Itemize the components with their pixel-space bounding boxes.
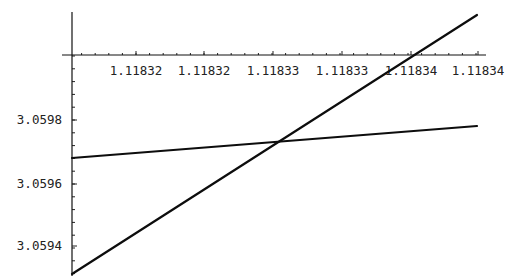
data-series (72, 15, 477, 274)
y-tick-label: 3.0598 (17, 112, 62, 127)
x-tick-label: 1.11833 (316, 63, 369, 78)
steep-series-line (72, 15, 477, 274)
y-axis-ticks: 3.05983.05963.0594 (17, 112, 77, 253)
x-tick-label: 1.11834 (385, 63, 438, 78)
line-chart: 1.118321.118321.118331.118331.118341.118… (0, 0, 505, 278)
x-tick-label: 1.11834 (452, 63, 505, 78)
x-tick-label: 1.11832 (178, 63, 231, 78)
x-tick-label: 1.11833 (247, 63, 300, 78)
y-tick-label: 3.0596 (17, 176, 62, 191)
x-tick-label: 1.11832 (110, 63, 163, 78)
shallow-series-line (72, 126, 477, 158)
y-tick-label: 3.0594 (17, 238, 62, 253)
